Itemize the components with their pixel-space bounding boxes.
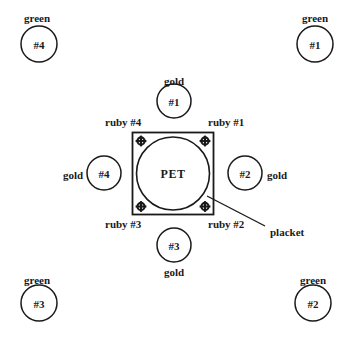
- green-4-material-label: green: [24, 13, 50, 24]
- ruby-1-label: ruby #1: [208, 117, 244, 128]
- ruby-4-label: ruby #4: [105, 117, 141, 128]
- ruby-marker-4-icon: [136, 136, 147, 147]
- green-circle-4-number: #4: [34, 40, 45, 51]
- placket-label: placket: [270, 227, 304, 238]
- gold-2-material-label: gold: [267, 170, 287, 181]
- gold-circle-3-number: #3: [169, 241, 180, 252]
- ruby-2-label: ruby #2: [208, 219, 244, 230]
- gold-4-material-label: gold: [63, 170, 83, 181]
- gold-circle-1-number: #1: [169, 97, 180, 108]
- ruby-marker-3-icon: [136, 201, 147, 212]
- green-circle-1-number: #1: [310, 40, 321, 51]
- green-3-material-label: green: [24, 275, 50, 286]
- ruby-marker-1-icon: [200, 136, 211, 147]
- gold-circle-2-number: #2: [240, 169, 251, 180]
- ruby-3-label: ruby #3: [105, 219, 141, 230]
- green-circle-2-number: #2: [308, 299, 319, 310]
- gold-circle-4-number: #4: [99, 169, 110, 180]
- pet-placket-diagram: PET ruby #1 ruby #2 ruby #3 ruby #4 #1 #…: [0, 0, 352, 340]
- gold-3-material-label: gold: [164, 267, 184, 278]
- green-2-material-label: green: [300, 275, 326, 286]
- green-1-material-label: green: [302, 13, 328, 24]
- gold-1-material-label: gold: [164, 76, 184, 87]
- ruby-marker-2-icon: [200, 201, 211, 212]
- green-circle-3-number: #3: [34, 299, 45, 310]
- pet-label: PET: [161, 168, 186, 180]
